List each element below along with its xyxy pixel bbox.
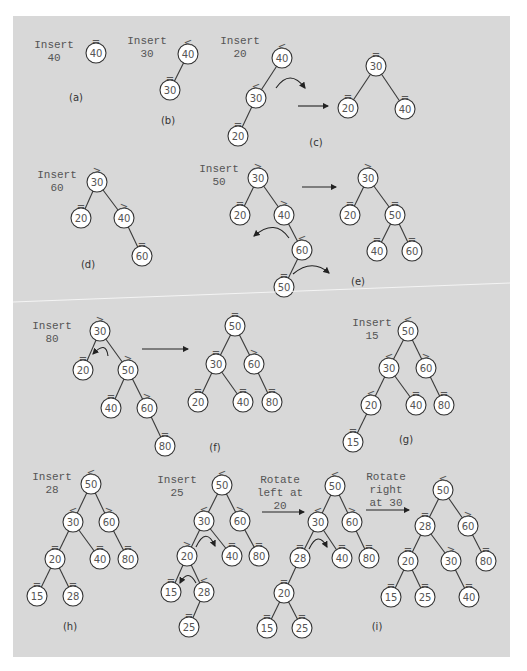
node-value: 80 [159,441,172,452]
tree-node: 40= [406,388,426,416]
balance-indicator: < [314,505,322,516]
panel-d: 30>20=40>60= [71,165,152,267]
node-value: 60 [406,246,419,257]
panel-e: 30>20=40>60<50=30>20=50=40=60= [230,161,422,298]
node-value: 40 [94,554,107,565]
balance-indicator: < [184,37,192,48]
balance-indicator: = [92,36,100,47]
node-value: 60 [346,517,359,528]
tree-node: 25= [179,610,199,638]
node-value: 80 [363,553,376,564]
balance-indicator: = [280,270,288,281]
node-value: 15 [385,592,398,603]
node-value: 20 [234,210,247,221]
balance-indicator: > [364,161,372,172]
node-value: 15 [31,591,44,602]
tree-node: 20= [188,385,208,413]
tree-node: 50= [385,198,405,226]
tree-node: 28< [194,575,214,603]
balance-indicator: = [69,579,77,590]
balance-indicator: > [250,347,258,358]
balance-indicator: = [408,234,416,245]
rotation-arrow-icon [196,536,215,547]
node-value: 20 [365,400,378,411]
node-value: 40 [371,246,384,257]
balance-indicator: = [404,544,412,555]
step-caption: at 30 [369,497,402,509]
balance-indicator: > [348,505,356,516]
balance-indicator: = [239,385,247,396]
balance-indicator: = [421,509,429,520]
balance-indicator: = [124,542,132,553]
node-value: 40 [182,49,195,60]
balance-indicator: = [268,385,276,396]
step-caption: 50 [212,176,225,188]
node-value: 50 [229,321,242,332]
rotation-arrow-icon [180,576,196,584]
panel-label: (c) [309,137,322,148]
balance-indicator: = [107,391,115,402]
tree-node: 40< [272,41,292,69]
balance-indicator: < [404,314,412,325]
node-value: 40 [226,551,239,562]
balance-indicator: = [373,234,381,245]
node-value: 20 [77,365,90,376]
node-value: 15 [347,437,360,448]
node-value: 50 [329,481,342,492]
node-value: 80 [253,551,266,562]
node-value: 20 [49,554,62,565]
step-caption: Insert [32,320,72,332]
node-value: 25 [419,592,432,603]
node-value: 40 [90,48,103,59]
node-value: 20 [75,213,88,224]
balance-indicator: < [87,467,95,478]
node-value: 25 [183,622,196,633]
node-value: 50 [122,365,135,376]
step-caption: 20 [233,48,246,60]
balance-indicator: = [234,119,242,130]
balance-indicator: = [482,544,490,555]
balance-indicator: > [254,161,262,172]
balance-indicator: = [263,611,271,622]
tree-node: 30= [366,49,386,77]
node-value: 60 [462,521,475,532]
balance-indicator: = [296,541,304,552]
node-value: 30 [164,85,177,96]
balance-indicator: = [349,425,357,436]
tree-node: 30> [358,161,378,189]
balance-indicator: > [280,198,288,209]
panel-a: 40= [86,36,106,64]
balance-indicator: = [387,580,395,591]
balance-indicator: > [143,391,151,402]
balance-indicator: = [185,610,193,621]
node-value: 50 [437,485,450,496]
node-value: 60 [420,363,433,374]
scan-line [13,283,510,302]
balance-indicator: > [124,353,132,364]
node-value: 40 [336,553,349,564]
balance-indicator: < [298,233,306,244]
tree-node: 20= [274,576,294,604]
node-value: 28 [67,591,80,602]
node-value: 30 [94,326,107,337]
tree-node: 50< [212,468,232,496]
balance-indicator: = [231,309,239,320]
tree-node: 20= [338,91,358,119]
tree-node: 30> [90,314,110,342]
balance-indicator: = [161,429,169,440]
balance-indicator: = [372,49,380,60]
balance-indicator: > [183,539,191,550]
tree-node: 40= [222,539,242,567]
panel-label: (f) [209,442,220,453]
node-value: 30 [252,173,265,184]
balance-indicator: = [346,198,354,209]
node-value: 60 [234,516,247,527]
balance-indicator: = [338,541,346,552]
tree-node: 50< [81,467,101,495]
node-value: 50 [389,210,402,221]
node-value: 28 [198,587,211,598]
balance-indicator: = [465,580,473,591]
node-value: 28 [419,521,432,532]
step-caption: right [369,484,402,496]
rotation-arrow-icon [309,539,327,549]
